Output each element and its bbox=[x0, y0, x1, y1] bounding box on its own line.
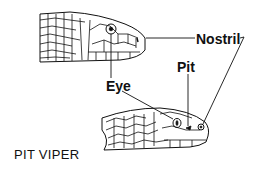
diagram-illustration bbox=[0, 0, 264, 169]
snake-head-diagram: Nostril Pit Eye PIT VIPER bbox=[0, 0, 264, 169]
diagram-caption: PIT VIPER bbox=[14, 148, 79, 161]
nostril-label: Nostril bbox=[196, 32, 240, 46]
eye-leader-bottom bbox=[122, 91, 173, 119]
eye-label: Eye bbox=[106, 79, 131, 93]
top-snake-head bbox=[40, 12, 145, 62]
pit-label: Pit bbox=[177, 60, 195, 74]
pit-viper-head bbox=[102, 108, 209, 150]
nostril-leader-bottom bbox=[203, 37, 244, 124]
